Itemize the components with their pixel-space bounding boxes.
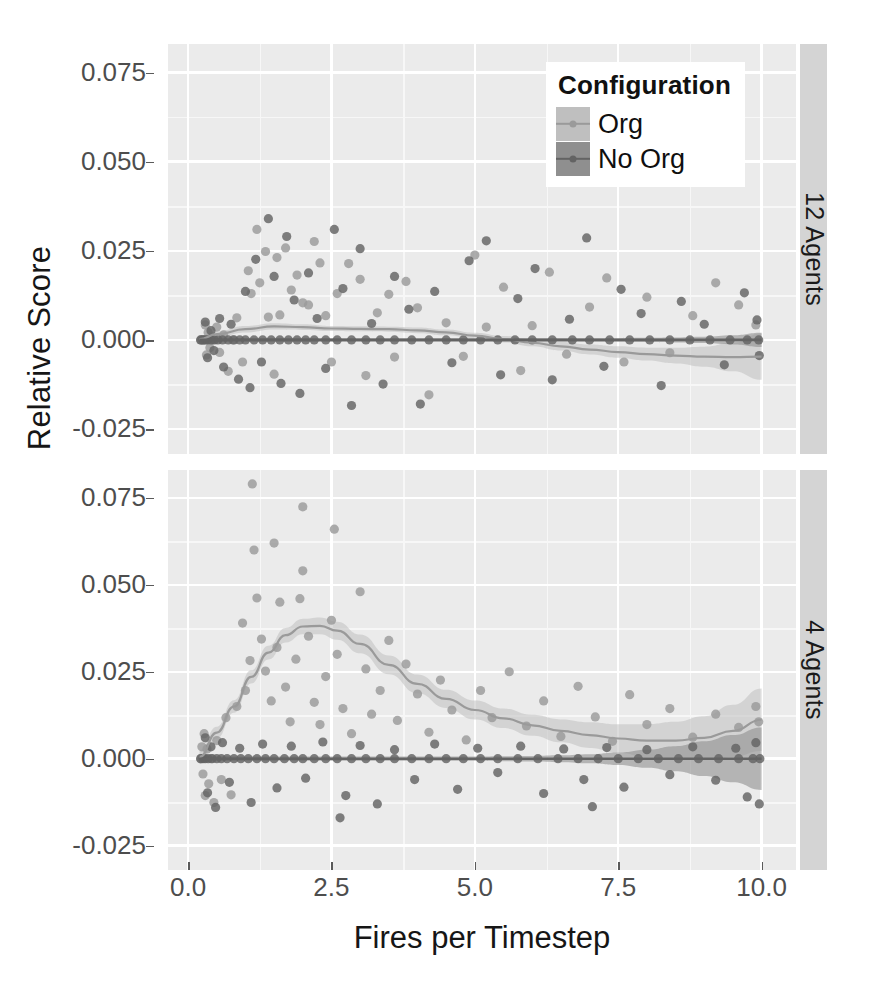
scatter-point <box>711 278 720 287</box>
scatter-point <box>401 277 410 286</box>
data-layer <box>168 470 796 870</box>
scatter-point <box>616 285 625 294</box>
x-tick-mark <box>618 862 620 870</box>
scatter-point <box>321 364 330 373</box>
scatter-point <box>413 303 422 312</box>
x-tick-mark <box>475 862 477 870</box>
y-tick-mark <box>146 73 154 75</box>
scatter-point <box>743 792 752 801</box>
scatter-point <box>347 401 356 410</box>
scatter-point <box>255 278 264 287</box>
scatter-point <box>367 710 376 719</box>
figure-root: Relative Score Fires per Timestep 12 Age… <box>0 0 882 995</box>
scatter-point <box>341 791 350 800</box>
scatter-point <box>251 255 260 264</box>
scatter-point <box>588 802 597 811</box>
scatter-point <box>390 745 399 754</box>
scatter-point <box>599 362 608 371</box>
y-tick-mark <box>146 672 154 674</box>
y-tick-mark <box>146 162 154 164</box>
scatter-point <box>505 667 514 676</box>
scatter-point <box>516 366 525 375</box>
scatter-point <box>304 300 313 309</box>
scatter-point <box>270 272 279 281</box>
scatter-point <box>247 798 256 807</box>
y-tick-mark <box>146 340 154 342</box>
scatter-point <box>203 353 212 362</box>
scatter-point <box>545 268 554 277</box>
scatter-point <box>270 538 279 547</box>
scatter-point <box>295 389 304 398</box>
scatter-point <box>401 659 410 668</box>
scatter-point <box>225 778 234 787</box>
scatter-point <box>530 264 539 273</box>
scatter-point <box>356 587 365 596</box>
scatter-point <box>344 259 353 268</box>
scatter-point <box>238 618 247 627</box>
scatter-point <box>330 225 339 234</box>
legend-item-org[interactable]: Org <box>556 107 731 141</box>
scatter-point <box>430 287 439 296</box>
scatter-point <box>275 310 284 319</box>
scatter-point <box>315 720 324 729</box>
scatter-point <box>333 650 342 659</box>
scatter-point <box>665 704 674 713</box>
scatter-point <box>245 383 254 392</box>
scatter-point <box>711 710 720 719</box>
scatter-point <box>258 739 267 748</box>
scatter-point <box>304 632 313 641</box>
scatter-point <box>338 284 347 293</box>
scatter-point <box>559 744 568 753</box>
scatter-point <box>198 769 207 778</box>
y-tick-mark <box>146 585 154 587</box>
scatter-point <box>318 737 327 746</box>
x-axis-label: Fires per Timestep <box>168 920 796 956</box>
scatter-point <box>313 314 322 323</box>
scatter-point <box>235 744 244 753</box>
y-tick-label: 0.000 <box>46 326 146 352</box>
scatter-point <box>625 690 634 699</box>
facet-strip-4-agents: 4 Agents <box>800 470 827 870</box>
scatter-point <box>249 545 258 554</box>
scatter-point <box>413 689 422 698</box>
scatter-point <box>287 742 296 751</box>
scatter-point <box>740 288 749 297</box>
scatter-point <box>410 775 419 784</box>
scatter-point <box>642 745 651 754</box>
scatter-point <box>298 566 307 575</box>
scatter-point <box>252 593 261 602</box>
x-tick-label: 0.0 <box>128 872 248 903</box>
scatter-point <box>573 682 582 691</box>
scatter-point <box>356 244 365 253</box>
scatter-point <box>304 268 313 277</box>
scatter-point <box>361 371 370 380</box>
y-tick-mark <box>146 846 154 848</box>
scatter-point <box>528 321 537 330</box>
scatter-point <box>579 775 588 784</box>
scatter-point <box>424 728 433 737</box>
legend-item-no-org[interactable]: No Org <box>556 142 731 176</box>
scatter-point <box>264 313 273 322</box>
scatter-point <box>321 311 330 320</box>
scatter-point <box>562 350 571 359</box>
scatter-point <box>591 712 600 721</box>
legend-point-swatch <box>570 121 577 128</box>
scatter-point <box>424 390 433 399</box>
scatter-point <box>264 214 273 223</box>
scatter-point <box>384 636 393 645</box>
scatter-point <box>292 270 301 279</box>
legend-label-org: Org <box>598 110 643 138</box>
scatter-point <box>267 696 276 705</box>
scatter-point <box>384 290 393 299</box>
scatter-point <box>482 236 491 245</box>
scatter-point <box>582 233 591 242</box>
scatter-point <box>248 479 257 488</box>
scatter-point <box>281 682 290 691</box>
scatter-point <box>430 739 439 748</box>
y-tick-mark <box>146 251 154 253</box>
scatter-point <box>310 237 319 246</box>
scatter-point <box>473 744 482 753</box>
scatter-point <box>416 399 425 408</box>
scatter-point <box>281 243 290 252</box>
scatter-point <box>390 352 399 361</box>
